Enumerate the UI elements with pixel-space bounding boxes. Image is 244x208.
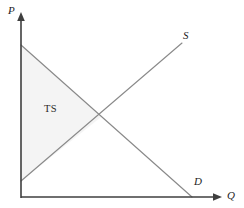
quantity-axis-arrowhead	[213, 193, 222, 201]
supply-curve-label: S	[183, 30, 189, 41]
total-surplus-region	[21, 45, 101, 181]
diagram-canvas	[0, 0, 244, 208]
supply-demand-figure: P Q S D TS	[0, 0, 244, 208]
quantity-axis-label: Q	[227, 190, 235, 201]
price-axis-label: P	[8, 5, 15, 16]
total-surplus-label: TS	[44, 104, 57, 115]
demand-curve-label: D	[194, 176, 202, 187]
price-axis-arrowhead	[17, 12, 25, 21]
